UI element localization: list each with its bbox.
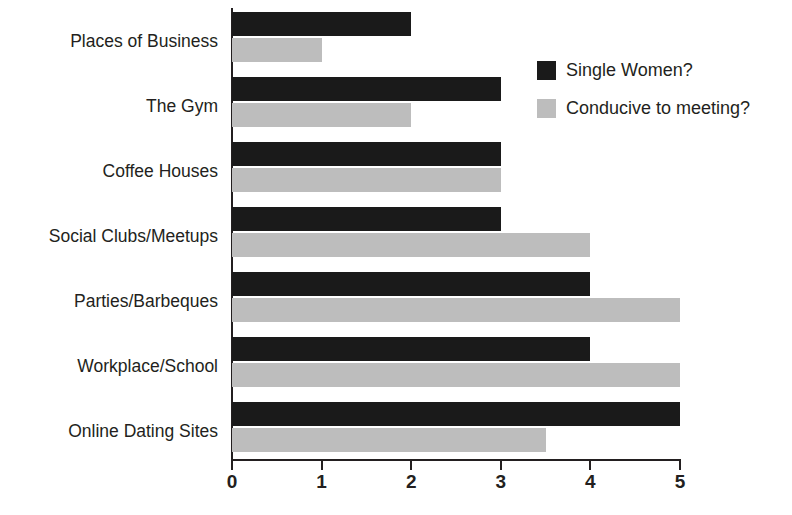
- category-label: Social Clubs/Meetups: [0, 228, 218, 246]
- bar-chart: 012345 Places of BusinessThe GymCoffee H…: [0, 0, 792, 515]
- x-tick-mark: [321, 461, 323, 470]
- x-tick-label: 5: [665, 471, 695, 493]
- category-label: Workplace/School: [0, 358, 218, 376]
- legend-swatch-light-icon: [537, 99, 556, 118]
- x-tick-mark: [500, 461, 502, 470]
- bar-single-women: [232, 272, 590, 296]
- bar-single-women: [232, 77, 501, 101]
- category-label: Coffee Houses: [0, 163, 218, 181]
- bar-conducive: [232, 233, 590, 257]
- x-tick-label: 3: [486, 471, 516, 493]
- x-tick-label: 2: [396, 471, 426, 493]
- category-label: Parties/Barbeques: [0, 293, 218, 311]
- x-tick-mark: [679, 461, 681, 470]
- bar-conducive: [232, 363, 680, 387]
- bar-conducive: [232, 38, 322, 62]
- bar-single-women: [232, 402, 680, 426]
- category-label: Places of Business: [0, 33, 218, 51]
- legend-swatch-dark-icon: [537, 61, 556, 80]
- bar-single-women: [232, 207, 501, 231]
- bar-conducive: [232, 103, 411, 127]
- x-tick-label: 1: [307, 471, 337, 493]
- x-tick-mark: [410, 461, 412, 470]
- x-tick-label: 4: [575, 471, 605, 493]
- category-label: The Gym: [0, 98, 218, 116]
- x-axis-line: [231, 459, 681, 461]
- bar-single-women: [232, 142, 501, 166]
- bar-conducive: [232, 298, 680, 322]
- legend-label-single-women: Single Women?: [566, 58, 693, 82]
- x-tick-label: 0: [217, 471, 247, 493]
- x-tick-mark: [231, 461, 233, 470]
- bar-single-women: [232, 12, 411, 36]
- bar-conducive: [232, 168, 501, 192]
- x-tick-mark: [589, 461, 591, 470]
- category-label: Online Dating Sites: [0, 423, 218, 441]
- legend-label-conducive: Conducive to meeting?: [566, 96, 750, 120]
- bar-single-women: [232, 337, 590, 361]
- bar-conducive: [232, 428, 546, 452]
